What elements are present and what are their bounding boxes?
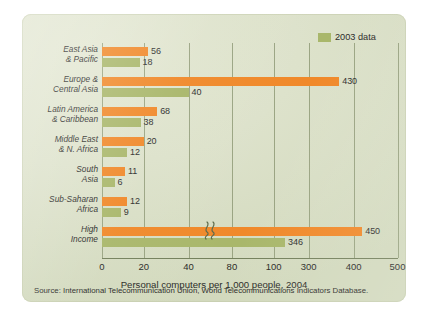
bar-2004 [102, 77, 339, 86]
category-label-line: Europe & [22, 74, 98, 84]
bar-2003-data [102, 118, 141, 127]
plot-area: 56184304068382012116129450346 [102, 43, 398, 258]
category-label-3: Middle East& N. Africa [22, 134, 98, 154]
bar-value-label: 38 [144, 118, 154, 127]
category-label-4: SouthAsia [22, 164, 98, 184]
bar-2004 [102, 197, 127, 206]
bar-group: 116 [102, 167, 398, 189]
category-label-line: & Caribbean [22, 114, 98, 124]
x-tick-300: 300 [301, 261, 317, 272]
bar-value-label: 9 [124, 208, 129, 217]
bar-group: 43040 [102, 77, 398, 99]
axis-break-icon [200, 220, 222, 240]
x-tick-100: 100 [266, 261, 282, 272]
category-label-line: Latin America [22, 104, 98, 114]
source-note: Source: International Telecommunication … [34, 286, 368, 295]
category-label-line: & N. Africa [22, 144, 98, 154]
category-label-line: Income [22, 234, 98, 244]
bar-value-label: 346 [288, 238, 303, 247]
bar-group: 6838 [102, 107, 398, 129]
category-label-line: South [22, 164, 98, 174]
x-axis-line [102, 258, 398, 259]
category-label-5: Sub-SaharanAfrica [22, 194, 98, 214]
bar-value-label: 6 [118, 178, 123, 187]
bar-value-label: 40 [192, 88, 202, 97]
category-label-line: East Asia [22, 44, 98, 54]
bar-value-label: 18 [143, 58, 153, 67]
bar-2003-data [102, 178, 115, 187]
category-label-line: Africa [22, 204, 98, 214]
bar-group: 5618 [102, 47, 398, 69]
chart-panel: 2003 data East Asia& PacificEurope &Cent… [22, 14, 406, 302]
x-tick-0: 0 [99, 261, 104, 272]
chart-screenshot: 2003 data East Asia& PacificEurope &Cent… [0, 0, 431, 322]
x-tick-20: 20 [138, 261, 149, 272]
category-label-6: HighIncome [22, 224, 98, 244]
category-label-1: Europe &Central Asia [22, 74, 98, 94]
bar-2003-data [102, 208, 121, 217]
bar-group: 450346 [102, 227, 398, 249]
category-label-line: Middle East [22, 134, 98, 144]
category-label-line: Sub-Saharan [22, 194, 98, 204]
x-tick-400: 400 [346, 261, 362, 272]
legend: 2003 data [318, 32, 376, 42]
bar-2004 [102, 167, 125, 176]
bar-value-label: 430 [342, 77, 357, 86]
x-tick-40: 40 [183, 261, 194, 272]
bar-2003-data [102, 88, 189, 97]
category-label-line: & Pacific [22, 54, 98, 64]
bar-2004 [102, 227, 362, 236]
bar-2003-data [102, 58, 140, 67]
bar-group: 129 [102, 197, 398, 219]
bar-group: 2012 [102, 137, 398, 159]
category-label-line: High [22, 224, 98, 234]
bar-value-label: 12 [130, 197, 140, 206]
bar-2003-data [102, 148, 127, 157]
category-label-line: Asia [22, 174, 98, 184]
bar-value-label: 450 [365, 227, 380, 236]
bar-2004 [102, 47, 148, 56]
bar-value-label: 68 [160, 107, 170, 116]
category-label-line: Central Asia [22, 84, 98, 94]
legend-label: 2003 data [335, 32, 376, 42]
bar-2003-data [102, 238, 285, 247]
bar-value-label: 20 [147, 137, 157, 146]
bar-2004 [102, 107, 157, 116]
bar-2004 [102, 137, 144, 146]
bar-value-label: 56 [151, 47, 161, 56]
bar-value-label: 11 [128, 167, 137, 176]
x-tick-500: 500 [390, 261, 406, 272]
category-label-0: East Asia& Pacific [22, 44, 98, 64]
category-label-2: Latin America& Caribbean [22, 104, 98, 124]
bar-value-label: 12 [130, 148, 140, 157]
x-tick-80: 80 [227, 261, 238, 272]
legend-swatch-2003-icon [318, 33, 331, 42]
